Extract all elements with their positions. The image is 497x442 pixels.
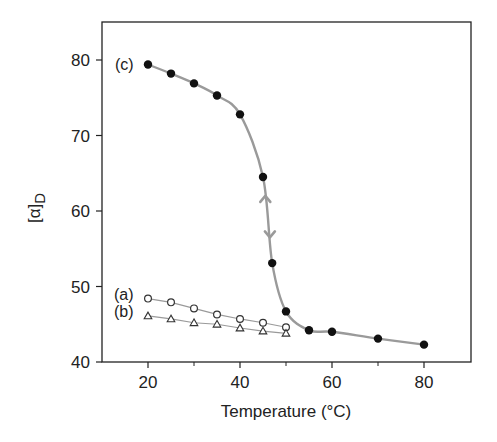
x-tick-label: 20: [139, 373, 158, 392]
series-label-a: (a): [114, 286, 134, 303]
filled-circle-marker: [213, 91, 221, 99]
x-tick-label: 40: [231, 373, 250, 392]
series-markers: [144, 60, 428, 349]
filled-circle-marker: [328, 328, 336, 336]
curve-c: [148, 65, 424, 345]
x-tick-label: 60: [323, 373, 342, 392]
filled-circle-marker: [420, 340, 428, 348]
filled-circle-marker: [305, 326, 313, 334]
filled-circle-marker: [190, 79, 198, 87]
open-circle-marker: [237, 316, 244, 323]
open-circle-marker: [168, 299, 175, 306]
open-circle-marker: [145, 295, 152, 302]
y-tick-label: 70: [71, 127, 90, 146]
open-triangle-marker: [144, 312, 152, 319]
filled-circle-marker: [167, 69, 175, 77]
y-tick-label: 80: [71, 51, 90, 70]
filled-circle-marker: [268, 259, 276, 267]
y-axis-title-sub: D: [31, 193, 48, 204]
x-tick-label: 80: [415, 373, 434, 392]
filled-circle-marker: [374, 334, 382, 342]
y-tick-label: 50: [71, 278, 90, 297]
y-tick-label: 40: [71, 353, 90, 372]
filled-circle-marker: [144, 60, 152, 68]
series-label-c: (c): [115, 56, 134, 73]
svg-text:[α]D: [α]D: [25, 193, 48, 223]
x-axis-title: Temperature (°C): [221, 402, 352, 421]
y-axis-title-main: [α]: [25, 204, 44, 223]
series-curves: [148, 65, 424, 345]
filled-circle-marker: [259, 173, 267, 181]
y-axis-title: [α]D: [25, 193, 48, 223]
series-label-b: (b): [114, 303, 134, 320]
open-circle-marker: [191, 305, 198, 312]
chart: 405060708020406080 (a)(b)(c) Temperature…: [0, 0, 497, 442]
y-tick-label: 60: [71, 202, 90, 221]
open-circle-marker: [214, 311, 221, 318]
series-labels: (a)(b)(c): [114, 56, 134, 320]
open-circle-marker: [260, 319, 267, 326]
filled-circle-marker: [236, 110, 244, 118]
filled-circle-marker: [282, 307, 290, 315]
